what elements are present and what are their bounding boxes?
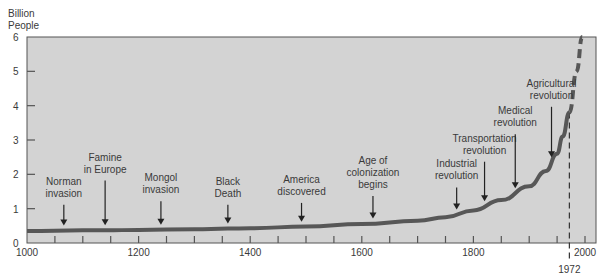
- annotation-text: colonization: [347, 167, 400, 178]
- x-tick-label: 1200: [127, 247, 150, 258]
- reference-line-label: 1972: [558, 264, 581, 275]
- annotation-text: revolution: [494, 117, 537, 128]
- y-tick-label: 6: [13, 32, 19, 43]
- y-tick-label: 1: [13, 204, 19, 215]
- annotation-text: Age of: [358, 155, 387, 166]
- x-tick-label: 1000: [16, 247, 39, 258]
- annotation-text: Transportation: [453, 133, 517, 144]
- annotation-text: Famine: [88, 152, 122, 163]
- y-tick-label: 5: [13, 66, 19, 77]
- annotation-text: Norman: [46, 176, 82, 187]
- x-tick-label: 2000: [574, 247, 597, 258]
- annotation-text: revolution: [530, 90, 573, 101]
- annotation-text: invasion: [143, 184, 180, 195]
- y-axis-label-line: People: [8, 20, 40, 31]
- annotation-text: Industrial: [436, 158, 477, 169]
- annotation-text: Medical: [498, 105, 532, 116]
- population-chart: BillionPeople 0123456 100012001400160018…: [0, 0, 606, 279]
- annotation-text: Black: [216, 176, 241, 187]
- annotation-text: in Europe: [84, 164, 127, 175]
- annotation-text: discovered: [277, 186, 325, 197]
- annotation-text: begins: [358, 179, 387, 190]
- y-axis-label-line: Billion: [8, 8, 35, 19]
- annotation-text: Agricultural: [527, 78, 577, 89]
- annotation-text: revolution: [435, 170, 478, 181]
- annotation-text: invasion: [45, 188, 82, 199]
- annotation-text: revolution: [463, 145, 506, 156]
- x-tick-label: 1400: [239, 247, 262, 258]
- y-tick-label: 3: [13, 135, 19, 146]
- y-tick-label: 2: [13, 169, 19, 180]
- annotation-text: Mongol: [145, 172, 178, 183]
- annotation-text: Death: [215, 188, 242, 199]
- x-tick-label: 1600: [351, 247, 374, 258]
- x-tick-label: 1800: [462, 247, 485, 258]
- y-tick-label: 4: [13, 101, 19, 112]
- y-axis-label: BillionPeople: [8, 8, 40, 31]
- annotation-text: America: [283, 174, 320, 185]
